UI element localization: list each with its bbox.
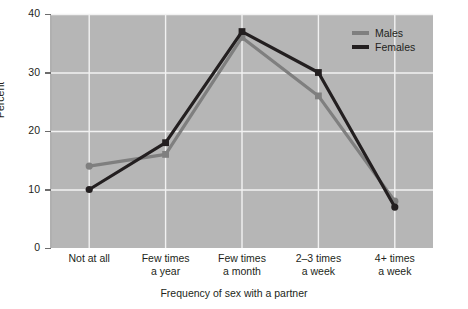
legend-item-males: Males [352, 26, 415, 40]
data-point [239, 28, 246, 35]
data-point [315, 93, 322, 100]
data-point [162, 139, 169, 146]
y-axis-tick-label: 30 [28, 66, 40, 78]
legend-item-females: Females [352, 40, 415, 54]
y-axis-tick-mark [45, 248, 51, 250]
legend-label-females: Females [375, 41, 415, 53]
data-point [391, 203, 398, 210]
chart-container: 010203040 Not at allFew timesa yearFew t… [0, 0, 468, 309]
data-point [86, 163, 93, 170]
y-axis-tick-mark [45, 72, 51, 74]
legend-swatch-females [352, 45, 369, 49]
y-axis-tick-label: 40 [28, 7, 40, 19]
y-axis-tick-label: 0 [34, 241, 40, 253]
y-axis-tick-mark [45, 14, 51, 16]
legend-swatch-males [352, 31, 369, 35]
x-axis-tick-label-line: 4+ times [347, 252, 443, 265]
data-point [162, 151, 169, 158]
x-axis-tick-label-line: a week [347, 265, 443, 278]
y-axis-tick-label: 10 [28, 183, 40, 195]
chart-legend: Males Females [352, 26, 415, 54]
y-axis-tick-mark [45, 131, 51, 133]
data-point [86, 186, 93, 193]
x-axis-label: Frequency of sex with a partner [0, 287, 468, 299]
legend-label-males: Males [375, 27, 403, 39]
y-axis-tick-label: 20 [28, 124, 40, 136]
x-axis-tick-label: 4+ timesa week [347, 252, 443, 277]
y-axis-label: Percent [0, 82, 6, 118]
data-point [315, 69, 322, 76]
y-axis-tick-mark [45, 189, 51, 191]
